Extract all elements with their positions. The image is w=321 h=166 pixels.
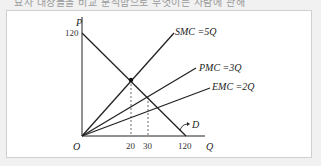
arrow-head-icon [187,122,190,126]
pmc-curve [82,68,196,136]
demand-pointer-arrow [180,124,187,131]
equilibrium-point [129,78,133,82]
x-tick-30: 30 [143,141,153,151]
emc-label: EMC =2Q [211,81,255,92]
q-axis-label: Q [206,141,214,152]
x-tick-120: 120 [178,141,192,151]
y-tick-120: 120 [65,28,79,38]
economics-chart: P 120 O 20 30 120 Q SMC =5Q PMC =3Q EMC … [0,0,321,166]
page: 묘사 대상들을 비교 분석함으로 무엇이든 사람에 관해 P 120 O 20 … [0,0,321,166]
smc-label: SMC =5Q [175,26,217,37]
p-axis-label: P [75,17,82,28]
smc-curve [82,33,174,136]
pmc-label: PMC =3Q [198,62,242,73]
demand-curve [82,33,186,136]
origin-label: O [73,141,80,152]
emc-curve [82,88,210,136]
x-tick-20: 20 [126,141,136,151]
demand-label: D [191,119,200,130]
